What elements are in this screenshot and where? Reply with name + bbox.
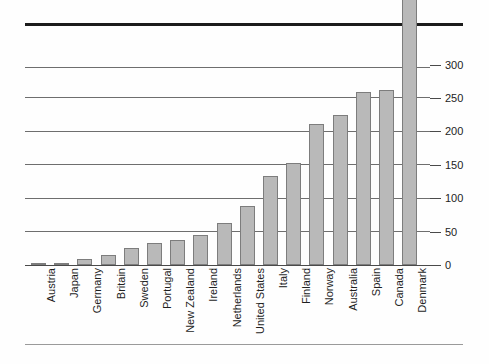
bar-chart-figure: 431 050100150200250300 AustriaJapanGerma… <box>0 0 489 364</box>
x-label-denmark: Denmark <box>415 268 430 313</box>
x-axis-labels: AustriaJapanGermanyBritainSwedenPortugal… <box>25 268 430 348</box>
y-tick-label-0: 0 <box>445 260 451 271</box>
x-label-canada: Canada <box>392 268 407 307</box>
bar-sweden <box>124 248 139 265</box>
x-label-australia: Australia <box>346 268 361 311</box>
y-tick-300 <box>430 65 441 66</box>
x-label-portugal: Portugal <box>160 268 175 309</box>
x-label-sweden: Sweden <box>137 268 152 308</box>
x-label-britain: Britain <box>114 268 129 299</box>
x-label-austria: Austria <box>44 268 59 302</box>
bar-finland <box>286 163 301 265</box>
y-tick-label-50: 50 <box>445 226 457 237</box>
x-label-spain: Spain <box>369 268 384 296</box>
bar-new-zealand <box>170 240 185 265</box>
bar-spain <box>356 92 371 265</box>
y-axis: 050100150200250300 <box>430 35 489 275</box>
bar-united-states <box>240 206 255 265</box>
y-tick-label-150: 150 <box>445 159 463 170</box>
bar-germany <box>77 259 92 265</box>
y-tick-label-300: 300 <box>445 59 463 70</box>
bar-austria <box>31 263 46 265</box>
bar-ireland <box>193 235 208 265</box>
bar-japan <box>54 263 69 265</box>
x-label-germany: Germany <box>90 268 105 313</box>
x-label-united-states: United States <box>253 268 268 334</box>
bar-britain <box>101 255 116 265</box>
plot-area: 431 <box>25 35 430 266</box>
x-label-japan: Japan <box>67 268 82 298</box>
bar-australia <box>333 115 348 265</box>
y-tick-200 <box>430 131 441 132</box>
x-label-ireland: Ireland <box>206 268 221 302</box>
x-label-finland: Finland <box>299 268 314 304</box>
bar-series: 431 <box>25 35 430 266</box>
y-tick-label-250: 250 <box>445 93 463 104</box>
top-rule <box>25 23 463 26</box>
bar-denmark: 431 <box>402 0 417 265</box>
x-label-italy: Italy <box>276 268 291 288</box>
y-tick-100 <box>430 198 441 199</box>
bar-portugal <box>147 243 162 265</box>
y-tick-250 <box>430 98 441 99</box>
y-tick-150 <box>430 165 441 166</box>
bottom-rule <box>25 344 463 345</box>
x-label-new-zealand: New Zealand <box>183 268 198 333</box>
y-tick-0 <box>430 265 441 266</box>
bar-italy <box>263 176 278 265</box>
bar-norway <box>309 124 324 265</box>
y-tick-50 <box>430 232 441 233</box>
bar-netherlands <box>217 223 232 265</box>
x-label-norway: Norway <box>322 268 337 305</box>
x-label-netherlands: Netherlands <box>230 268 245 327</box>
bar-canada <box>379 90 394 265</box>
y-tick-label-100: 100 <box>445 193 463 204</box>
y-tick-label-200: 200 <box>445 126 463 137</box>
